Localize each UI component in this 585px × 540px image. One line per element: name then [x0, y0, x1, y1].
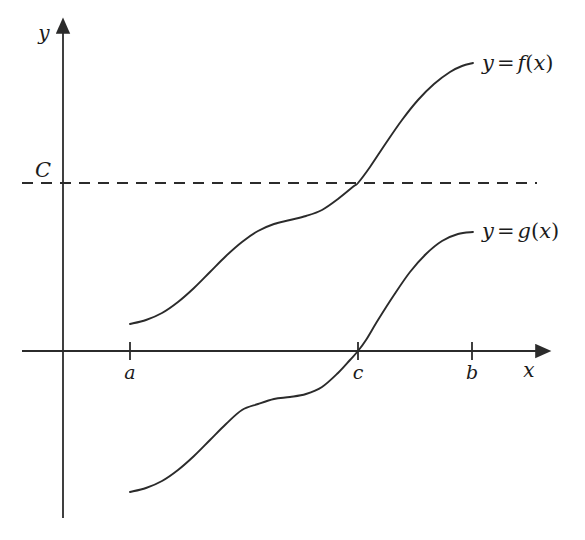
curves-group [130, 63, 473, 492]
x-axis-label: x [523, 360, 534, 380]
x-tick-label-a: a [124, 363, 135, 382]
curve-label-f-equals: = [494, 51, 518, 75]
curve-label-g-fn: g [517, 219, 530, 243]
curve-label-g-arg: x [539, 219, 551, 243]
curve-label-f-close-paren: ) [545, 51, 553, 75]
curve-label-g-open-paren: ( [531, 219, 539, 243]
figure-canvas: y x C a c b y=f(x) y=g(x) [0, 0, 585, 540]
curve-label-g-y: y [482, 219, 494, 243]
curve-f [130, 63, 473, 324]
curve-label-g: y=g(x) [482, 221, 559, 242]
curve-label-f-arg: x [533, 51, 545, 75]
curve-label-g-equals: = [494, 219, 518, 243]
figure-drawing [0, 0, 585, 540]
x-tick-label-c: c [353, 363, 364, 382]
x-tick-label-b: b [466, 363, 478, 382]
curve-label-f: y=f(x) [482, 53, 554, 74]
constant-level-label: C [35, 160, 51, 181]
curve-label-f-y: y [482, 51, 494, 75]
curve-label-g-close-paren: ) [551, 219, 559, 243]
y-axis-label: y [38, 23, 49, 43]
axes-group [22, 32, 537, 518]
curve-g [130, 232, 473, 492]
